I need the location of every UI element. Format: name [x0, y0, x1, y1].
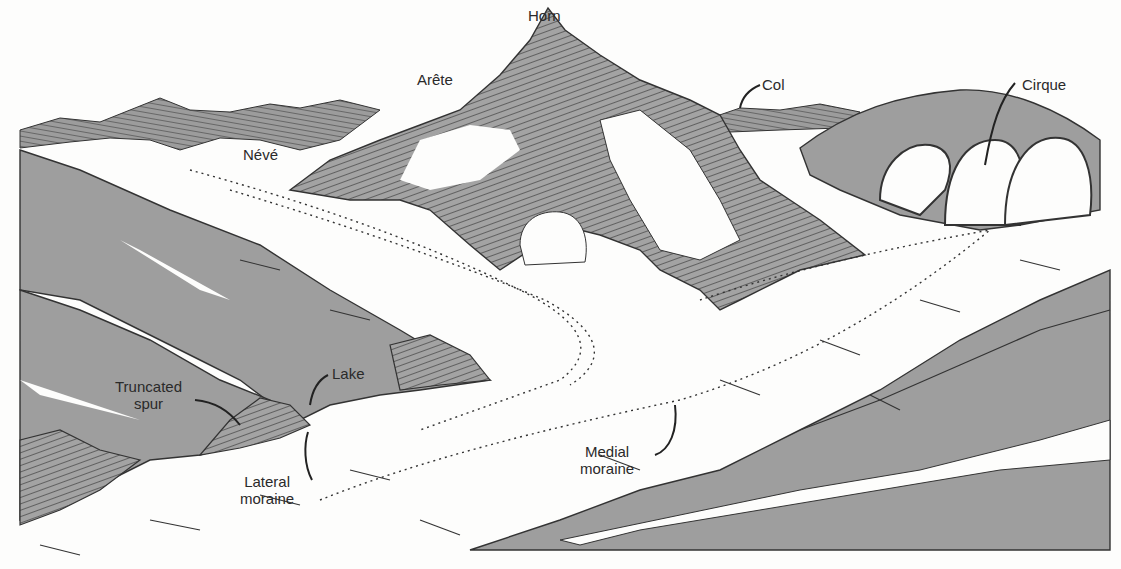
label-cirque: Cirque [1022, 76, 1066, 93]
label-truncated-spur: Truncated spur [115, 378, 182, 412]
col-pointer [740, 85, 760, 108]
glacial-landforms-diagram: Horn Arête Col Cirque Névé Truncated spu… [0, 0, 1121, 569]
right-valley-wall [470, 270, 1110, 550]
background-ridge-left [20, 98, 380, 150]
label-col: Col [762, 76, 785, 93]
label-lateral-moraine: Lateral moraine [240, 473, 294, 507]
label-lake: Lake [332, 365, 365, 382]
diagram-illustration [0, 0, 1121, 569]
label-lateral-moraine-line2: moraine [240, 490, 294, 507]
medial-moraine-pointer [655, 405, 676, 455]
lateral-moraine-pointer [305, 432, 312, 480]
label-arete: Arête [417, 71, 453, 88]
horn-massif [290, 8, 865, 310]
label-truncated-spur-line1: Truncated [115, 378, 182, 395]
label-medial-moraine-line2: moraine [580, 460, 634, 477]
label-truncated-spur-line2: spur [115, 395, 182, 412]
label-lateral-moraine-line1: Lateral [240, 473, 294, 490]
label-horn: Horn [528, 7, 561, 24]
label-medial-moraine: Medial moraine [580, 443, 634, 477]
label-neve: Névé [243, 146, 278, 163]
label-medial-moraine-line1: Medial [580, 443, 634, 460]
spur-right [390, 335, 490, 390]
